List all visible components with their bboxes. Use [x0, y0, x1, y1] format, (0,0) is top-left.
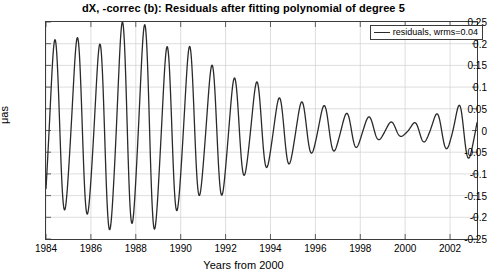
x-tick-label: 1998: [349, 243, 371, 254]
y-tick-label: 0.05: [451, 103, 487, 114]
y-tick-label: -0.15: [451, 190, 487, 201]
figure: dX, -correc (b): Residuals after fitting…: [0, 0, 487, 279]
axis-labels-layer: -0.25-0.2-0.15-0.1-0.0500.050.10.150.20.…: [0, 0, 487, 279]
y-axis-title: μas: [0, 106, 10, 124]
legend: residuals, wrms=0.04: [370, 25, 483, 40]
y-tick-label: -0.2: [451, 212, 487, 223]
y-tick-label: -0.05: [451, 147, 487, 158]
legend-line-swatch: [374, 32, 390, 33]
y-tick-label: 0.15: [451, 60, 487, 71]
y-tick-label: 0.1: [451, 82, 487, 93]
x-tick-label: 2002: [439, 243, 461, 254]
x-tick-label: 1984: [35, 243, 57, 254]
x-tick-label: 1986: [80, 243, 102, 254]
x-tick-label: 1992: [214, 243, 236, 254]
x-tick-label: 1988: [125, 243, 147, 254]
x-tick-label: 1996: [304, 243, 326, 254]
legend-label-residuals: residuals, wrms=0.04: [393, 27, 478, 37]
y-tick-label: -0.1: [451, 168, 487, 179]
x-tick-label: 1990: [170, 243, 192, 254]
y-tick-label: 0: [451, 125, 487, 136]
x-tick-label: 1994: [259, 243, 281, 254]
x-tick-label: 2000: [394, 243, 416, 254]
x-axis-title: Years from 2000: [0, 259, 487, 271]
